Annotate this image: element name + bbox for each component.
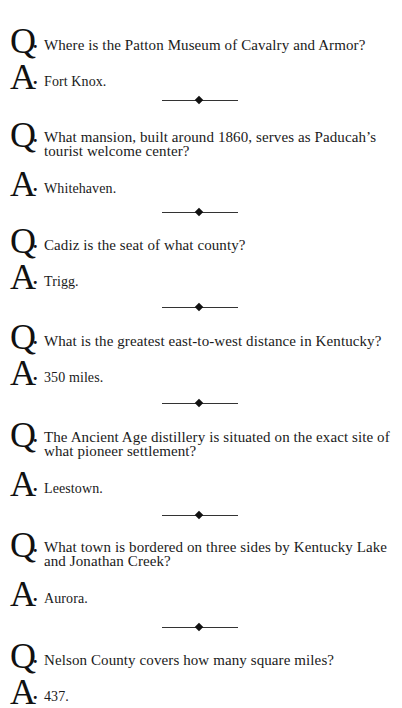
divider-rule xyxy=(162,100,238,101)
diamond-ornament-icon xyxy=(195,399,203,407)
answer-text: Whitehaven. xyxy=(44,181,116,199)
qa-item-4: Q. What is the greatest east-to-west dis… xyxy=(10,322,394,388)
answer-row: A. 350 miles. xyxy=(10,358,394,388)
diamond-ornament-icon xyxy=(195,303,203,311)
a-marker: A. xyxy=(10,262,44,292)
qa-item-5: Q. The Ancient Age distillery is situate… xyxy=(10,420,394,499)
question-row: Q. What mansion, built around 1860, serv… xyxy=(10,120,394,161)
answer-text: Fort Knox. xyxy=(44,74,106,92)
question-text: Nelson County covers how many square mil… xyxy=(44,653,334,671)
answer-row: A. Whitehaven. xyxy=(10,169,394,199)
answer-text: 350 miles. xyxy=(44,370,103,388)
qa-item-2: Q. What mansion, built around 1860, serv… xyxy=(10,120,394,199)
q-marker: Q. xyxy=(10,322,44,352)
question-text: Where is the Patton Museum of Cavalry an… xyxy=(44,38,365,56)
question-text: The Ancient Age distillery is situated o… xyxy=(44,420,390,461)
divider-rule xyxy=(162,403,238,404)
a-marker: A. xyxy=(10,677,44,707)
question-row: Q. What is the greatest east-to-west dis… xyxy=(10,322,394,352)
question-text: What town is bordered on three sides by … xyxy=(44,530,387,571)
answer-row: A. Fort Knox. xyxy=(10,62,394,92)
diamond-ornament-icon xyxy=(195,511,203,519)
q-marker: Q. xyxy=(10,420,44,450)
qa-item-6: Q. What town is bordered on three sides … xyxy=(10,530,394,609)
q-marker: Q. xyxy=(10,26,44,56)
a-marker: A. xyxy=(10,169,44,199)
q-marker: Q. xyxy=(10,120,44,150)
divider-rule xyxy=(162,515,238,516)
question-row: Q. The Ancient Age distillery is situate… xyxy=(10,420,394,461)
answer-row: A. Trigg. xyxy=(10,262,394,292)
question-row: Q. Nelson County covers how many square … xyxy=(10,641,394,671)
qa-item-1: Q. Where is the Patton Museum of Cavalry… xyxy=(10,26,394,92)
qa-item-7: Q. Nelson County covers how many square … xyxy=(10,641,394,707)
divider-rule xyxy=(162,212,238,213)
question-row: Q. Cadiz is the seat of what county? xyxy=(10,226,394,256)
diamond-ornament-icon xyxy=(195,208,203,216)
divider-rule xyxy=(162,307,238,308)
question-text: What mansion, built around 1860, serves … xyxy=(44,120,376,161)
question-text: Cadiz is the seat of what county? xyxy=(44,238,246,256)
diamond-ornament-icon xyxy=(195,623,203,631)
a-marker: A. xyxy=(10,469,44,499)
answer-text: 437. xyxy=(44,689,69,707)
a-marker: A. xyxy=(10,62,44,92)
q-marker: Q. xyxy=(10,641,44,671)
answer-text: Leestown. xyxy=(44,481,103,499)
q-marker: Q. xyxy=(10,226,44,256)
a-marker: A. xyxy=(10,358,44,388)
answer-row: A. 437. xyxy=(10,677,394,707)
answer-row: A. Aurora. xyxy=(10,579,394,609)
answer-row: A. Leestown. xyxy=(10,469,394,499)
divider-rule xyxy=(162,627,238,628)
answer-text: Trigg. xyxy=(44,274,79,292)
answer-text: Aurora. xyxy=(44,591,88,609)
question-text: What is the greatest east-to-west distan… xyxy=(44,334,381,352)
q-marker: Q. xyxy=(10,530,44,560)
question-row: Q. What town is bordered on three sides … xyxy=(10,530,394,571)
question-row: Q. Where is the Patton Museum of Cavalry… xyxy=(10,26,394,56)
diamond-ornament-icon xyxy=(195,96,203,104)
qa-item-3: Q. Cadiz is the seat of what county? A. … xyxy=(10,226,394,292)
a-marker: A. xyxy=(10,579,44,609)
